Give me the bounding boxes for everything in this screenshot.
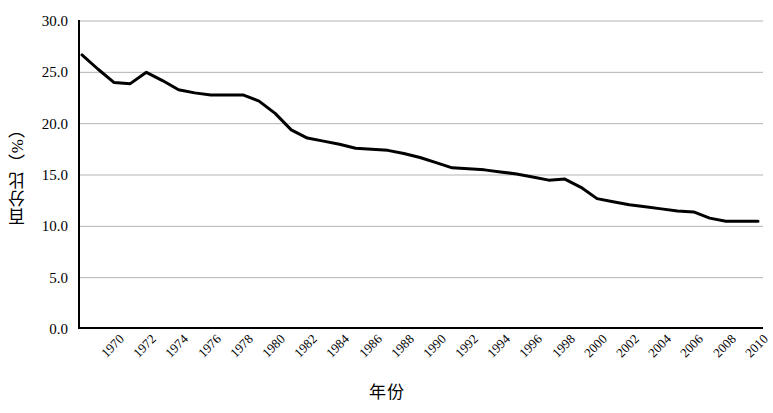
y-axis-tick-label: 25.0	[14, 65, 68, 80]
x-axis-tick-label: 1994	[485, 332, 513, 360]
x-axis-tick-label: 2008	[710, 332, 738, 360]
x-axis-tick-label: 1992	[453, 332, 481, 360]
x-axis-tick-label: 1996	[517, 332, 545, 360]
x-axis-tick-label: 1980	[260, 332, 288, 360]
x-axis-tick-label: 1984	[324, 332, 352, 360]
y-axis-tick-label: 10.0	[14, 219, 68, 234]
x-axis-tick-label: 2006	[678, 332, 706, 360]
x-axis-tick-label: 2000	[581, 332, 609, 360]
axis-frame	[78, 20, 763, 329]
x-axis-tick-label: 2010	[742, 332, 770, 360]
line-chart: 百分比（%） 0.05.010.015.020.025.030.0 197019…	[0, 0, 773, 413]
x-axis-tick-label: 1990	[421, 332, 449, 360]
x-axis-tick-label: 1972	[131, 332, 159, 360]
x-axis-tick-label: 1976	[195, 332, 223, 360]
x-axis-title: 年份	[0, 378, 773, 403]
x-axis-tick-label: 1986	[356, 332, 384, 360]
x-axis-tick-label: 1988	[388, 332, 416, 360]
x-axis-tick-label: 1970	[99, 332, 127, 360]
x-axis-tick-labels: 1970197219741976197819801982198419861988…	[0, 332, 773, 382]
x-axis-tick-label: 2002	[614, 332, 642, 360]
x-axis-tick-label: 1998	[549, 332, 577, 360]
plot-area	[78, 20, 763, 329]
x-axis-tick-label: 1974	[163, 332, 191, 360]
y-axis-tick-label: 15.0	[14, 168, 68, 183]
y-axis-tick-label: 30.0	[14, 14, 68, 29]
y-axis-tick-labels: 0.05.010.015.020.025.030.0	[8, 0, 68, 340]
x-axis-tick-label: 1978	[227, 332, 255, 360]
x-axis-tick-label: 2004	[646, 332, 674, 360]
y-axis-tick-label: 5.0	[14, 270, 68, 285]
y-axis-tick-label: 20.0	[14, 116, 68, 131]
x-axis-tick-label: 1982	[292, 332, 320, 360]
